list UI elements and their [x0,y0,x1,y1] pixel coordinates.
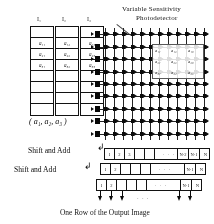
output-cell [145,149,155,159]
detector-arrow-icon [134,119,137,123]
detector-arrow-icon [179,94,182,98]
input-cell [56,82,78,93]
kernel-cell: a₃₂ [171,70,177,75]
detector-arrow-icon [161,94,164,98]
row-input-port [95,44,100,50]
detector-arrow-icon [152,32,155,36]
input-cell: a₂₁ [31,49,53,60]
input-column-header-2: I₂ [62,16,66,22]
output-arrow-icon [188,196,192,201]
detector-arrow-icon [125,45,128,49]
detector-arrow-icon [206,132,209,136]
output-cell: 1 [101,164,111,174]
figure-title-line2: Photodetector [136,15,177,22]
output-cell [141,164,151,174]
detector-arrow-icon [188,94,191,98]
detector-arrow-icon [152,82,155,86]
row-input-arrow-icon [91,107,94,111]
detector-arrow-icon [107,119,110,123]
detector-arrow-icon [161,32,164,36]
input-column-header-1: I₁ [37,16,41,22]
kernel-cell: a₂₁ [155,59,161,64]
detector-arrow-icon [161,119,164,123]
detector-arrow-icon [107,45,110,49]
output-row-ellipsis: · · · [155,183,168,188]
output-cell: N [200,149,211,159]
detector-arrow-icon [107,94,110,98]
detector-arrow-icon [143,107,146,111]
detector-arrow-icon [125,119,128,123]
detector-arrow-icon [152,119,155,123]
detector-arrow-icon [116,119,119,123]
detector-arrow-icon [143,32,146,36]
output-cell: N-2 [178,149,189,159]
detector-arrow-icon [170,32,173,36]
detector-arrow-icon [206,45,209,49]
input-cell [31,71,53,82]
detector-arrow-icon [188,32,191,36]
detector-arrow-icon [125,82,128,86]
row-input-port [95,106,100,112]
input-vector-label: ( a₁, a₂, a₃ ) [29,118,67,126]
row-input-port [95,118,100,124]
output-cell: 1 [97,180,107,190]
detector-arrow-icon [125,132,128,136]
detector-arrow-icon [107,32,110,36]
detector-arrow-icon [197,82,200,86]
detector-arrow-icon [206,107,209,111]
detector-arrow-icon [125,94,128,98]
output-arrow-icon [98,196,102,201]
output-row-divider [177,149,178,159]
output-arrows-ellipsis: · · · [137,196,150,201]
detector-arrow-icon [134,45,137,49]
detector-arrow-icon [134,132,137,136]
detector-arrow-icon [116,70,119,74]
detector-arrow-icon [197,119,200,123]
detector-arrow-icon [206,119,209,123]
detector-arrow-icon [197,32,200,36]
shift-and-add-label-1: Shift and Add [28,147,70,155]
output-cell [121,164,131,174]
row-input-port [95,81,100,87]
kernel-matrix-overlay: a₁₁a₁₂a₁₃a₂₁a₂₂a₂₃a₃₁a₃₂a₃₃ [152,44,204,79]
kernel-cell: a₃₁ [155,70,161,75]
detector-arrow-icon [170,94,173,98]
detector-arrow-icon [107,57,110,61]
row-input-arrow-icon [91,70,94,74]
input-cell: a₁₁ [31,38,53,49]
output-arrow-icon [120,196,124,201]
detector-arrow-icon [134,57,137,61]
input-cell [31,82,53,93]
detector-arrow-icon [161,107,164,111]
detector-arrow-icon [206,70,209,74]
output-cell: 1 [105,149,115,159]
output-arrow-icon [177,196,181,201]
shift-and-add-label-2: Shift and Add [14,166,56,174]
input-cell [56,93,78,104]
output-cell: 2 [115,149,125,159]
output-cell [127,180,137,190]
detector-arrow-icon [206,32,209,36]
kernel-cell: a₂₂ [171,59,177,64]
detector-arrow-icon [161,82,164,86]
detector-arrow-icon [206,82,209,86]
detector-arrow-icon [143,119,146,123]
detector-arrow-icon [152,94,155,98]
detector-arrow-icon [152,107,155,111]
output-cell [131,164,141,174]
detector-arrow-icon [170,107,173,111]
detector-arrow-icon [125,57,128,61]
kernel-cell: a₁₃ [188,48,194,53]
detector-arrow-icon [197,132,200,136]
output-cell: 2 [107,180,117,190]
detector-arrow-icon [179,82,182,86]
output-cell: N [196,164,207,174]
detector-arrow-icon [116,107,119,111]
detector-arrow-icon [116,82,119,86]
figure-optical-convolution-architecture: Variable Sensitivity Photodetector I₁ a₁… [0,0,214,224]
output-row-divider [180,180,181,190]
input-column-1: a₁₁ a₂₁ a₃₁ [30,26,54,116]
detector-arrow-icon [170,82,173,86]
detector-arrow-icon [161,132,164,136]
detector-arrow-icon [143,132,146,136]
